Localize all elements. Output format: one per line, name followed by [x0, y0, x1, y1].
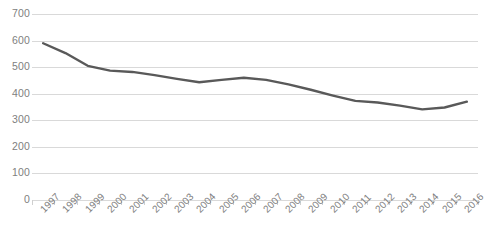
data-line [43, 43, 467, 109]
line-chart: 7006005004003002001000 19971998199920002… [0, 0, 489, 250]
series-layer [0, 0, 489, 250]
